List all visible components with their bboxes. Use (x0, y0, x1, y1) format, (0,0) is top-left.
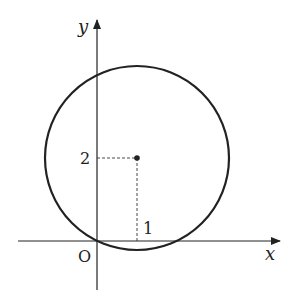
x-axis-label: x (265, 243, 275, 264)
coordinate-diagram: y x O 2 1 (0, 0, 297, 300)
y-tick-label: 2 (80, 149, 90, 168)
center-point (134, 155, 140, 161)
x-tick-label: 1 (143, 219, 153, 238)
origin-label: O (78, 247, 91, 266)
y-axis-label: y (77, 16, 89, 37)
